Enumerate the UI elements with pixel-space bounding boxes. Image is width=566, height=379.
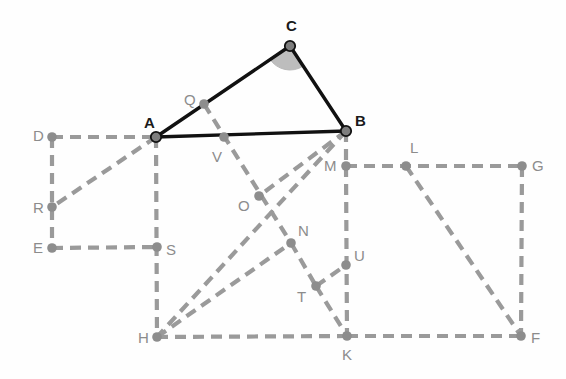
vertex-q bbox=[199, 99, 209, 109]
point-label-h: H bbox=[138, 330, 149, 345]
edge-AB bbox=[156, 131, 346, 137]
point-label-u: U bbox=[354, 248, 365, 263]
vertex-c bbox=[285, 41, 295, 51]
edge-AR bbox=[52, 137, 156, 207]
edge-GF bbox=[521, 166, 522, 336]
vertex-o bbox=[254, 191, 264, 201]
point-label-e: E bbox=[33, 240, 43, 255]
edge-LF bbox=[406, 166, 521, 336]
vertex-v bbox=[219, 132, 229, 142]
edge-TK bbox=[316, 286, 347, 336]
edge-ES bbox=[52, 247, 157, 248]
point-label-o: O bbox=[238, 198, 250, 213]
edge-BH bbox=[157, 131, 346, 337]
point-label-l: L bbox=[410, 140, 418, 155]
geometry-figure: ABCDEFGHKLMNOQRSTUV bbox=[0, 0, 566, 379]
point-label-c: C bbox=[286, 18, 297, 33]
vertex-r bbox=[47, 202, 57, 212]
edge-TU bbox=[316, 265, 346, 286]
point-label-r: R bbox=[33, 200, 44, 215]
vertex-t bbox=[311, 281, 321, 291]
edge-NT bbox=[291, 243, 316, 286]
vertex-a bbox=[151, 132, 161, 142]
vertices-layer bbox=[47, 41, 527, 342]
point-label-t: T bbox=[297, 289, 306, 304]
vertex-g bbox=[517, 161, 527, 171]
edge-HK bbox=[157, 336, 347, 337]
point-label-a: A bbox=[144, 115, 155, 130]
vertex-e bbox=[47, 243, 57, 253]
point-label-b: B bbox=[355, 113, 366, 128]
point-label-d: D bbox=[33, 128, 44, 143]
edge-AC bbox=[156, 46, 290, 137]
vertex-k bbox=[342, 331, 352, 341]
vertex-n bbox=[286, 238, 296, 248]
point-label-g: G bbox=[532, 158, 544, 173]
vertex-l bbox=[401, 161, 411, 171]
vertex-b bbox=[341, 126, 351, 136]
point-label-q: Q bbox=[184, 92, 196, 107]
point-label-f: F bbox=[531, 330, 540, 345]
edge-CB bbox=[290, 46, 346, 131]
vertex-u bbox=[341, 260, 351, 270]
vertex-d bbox=[47, 132, 57, 142]
point-label-n: N bbox=[298, 223, 309, 238]
point-label-m: M bbox=[324, 158, 337, 173]
vertex-m bbox=[341, 161, 351, 171]
edge-AH bbox=[156, 137, 157, 337]
point-label-s: S bbox=[166, 242, 176, 257]
vertex-s bbox=[152, 242, 162, 252]
figure-canvas bbox=[0, 0, 566, 379]
edge-HN bbox=[157, 243, 291, 337]
vertex-h bbox=[152, 332, 162, 342]
point-label-k: K bbox=[342, 347, 352, 362]
vertex-f bbox=[516, 331, 526, 341]
auxiliary-edges-layer bbox=[52, 104, 522, 337]
edge-QN bbox=[204, 104, 291, 243]
edge-MK bbox=[346, 166, 347, 336]
point-label-v: V bbox=[212, 149, 222, 164]
